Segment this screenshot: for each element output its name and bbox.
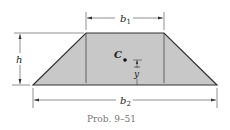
b2-arrow-left — [34, 99, 39, 102]
ybar-label: y — [133, 69, 140, 79]
b1-arrow-left — [87, 17, 92, 20]
b2-label: b2 — [120, 95, 131, 108]
b1-label: b1 — [120, 13, 131, 26]
centroid-label: C — [114, 49, 122, 60]
h-label: h — [16, 54, 22, 65]
figure-caption: Prob. 9–51 — [87, 114, 136, 124]
trapezoid-diagram: b1 h C y b2 Prob. 9–51 — [0, 0, 230, 130]
h-arrow-bottom — [19, 79, 22, 84]
b2-arrow-right — [211, 99, 216, 102]
h-arrow-top — [19, 34, 22, 39]
b1-arrow-right — [158, 17, 163, 20]
centroid-point — [123, 58, 127, 62]
